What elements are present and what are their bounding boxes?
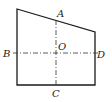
label-D: D: [96, 49, 105, 60]
label-O: O: [58, 41, 66, 52]
label-B: B: [2, 48, 10, 59]
trapezoid-diagram: A O B D C: [0, 0, 112, 102]
label-C: C: [52, 88, 60, 99]
label-A: A: [56, 8, 64, 19]
